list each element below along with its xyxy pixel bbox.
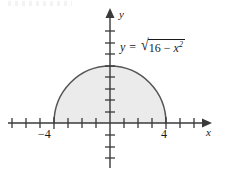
y-axis-label: y [119, 9, 124, 20]
curve-equation-label: y = √ 16−x2 [120, 39, 185, 54]
radicand: 16−x2 [148, 39, 185, 54]
x-axis-label: x [206, 127, 211, 138]
radical-sign-icon: √ [141, 37, 149, 54]
x-tick-label-positive-four: 4 [161, 128, 167, 140]
graph-figure: y x −4 4 y = √ 16−x2 [0, 0, 225, 177]
radicand-constant: 16 [149, 41, 161, 55]
x-tick-label-negative-four: −4 [38, 128, 51, 140]
radicand-minus-sign: − [161, 41, 174, 55]
radicand-exponent: 2 [179, 40, 183, 49]
y-axis-arrow-icon [106, 8, 115, 18]
equation-lhs: y [120, 41, 125, 53]
radical-expression: √ 16−x2 [141, 39, 185, 54]
coordinate-plane [0, 0, 225, 177]
equation-relation: = [129, 41, 136, 53]
